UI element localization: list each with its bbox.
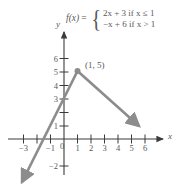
x-tick-label-6: 6	[139, 143, 152, 153]
x-axis-label: x	[168, 131, 172, 141]
x-tick-label-2: 2	[85, 143, 98, 153]
x-tick-label-5: 5	[125, 143, 138, 153]
vertex-point-marker	[75, 68, 81, 74]
point-annotation-label: (1, 5)	[85, 60, 105, 70]
y-tick-label--2: −2	[42, 161, 58, 171]
y-tick-label-3: 3	[47, 94, 58, 104]
origin-label: 0	[56, 141, 68, 151]
x-tick-label--3: −3	[15, 143, 32, 153]
curve-segment-descending	[78, 71, 140, 126]
graph-canvas	[0, 0, 186, 184]
y-axis-label: y	[56, 19, 60, 29]
y-tick-label-1: 1	[47, 121, 58, 131]
y-tick-label-4: 4	[47, 81, 58, 91]
piecewise-function-figure: f(x) = { 2x + 3 if x ≤ 1 −x + 6 if x > 1	[0, 0, 186, 184]
x-tick-label-1: 1	[71, 143, 84, 153]
x-tick-label-4: 4	[112, 143, 125, 153]
x-tick-label-3: 3	[98, 143, 111, 153]
y-tick-label-6: 6	[47, 54, 58, 64]
y-tick-label-5: 5	[47, 67, 58, 77]
